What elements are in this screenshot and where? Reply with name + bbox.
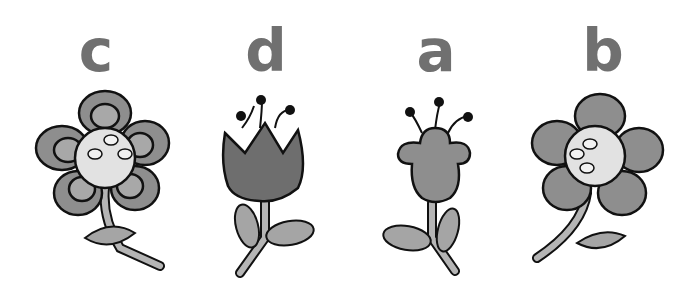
card-c: c (10, 0, 182, 301)
bell-flower-icon (350, 88, 522, 288)
card-d: d (180, 0, 352, 301)
card-a: a (350, 0, 522, 301)
letter-label: b (517, 16, 689, 86)
daisy-flower-icon (10, 88, 182, 288)
tulip-flower-icon (180, 88, 352, 288)
daisy-flower-icon (517, 88, 689, 288)
letter-label: a (350, 16, 522, 86)
letter-label: d (180, 16, 352, 86)
card-b: b (517, 0, 689, 301)
letter-label: c (10, 16, 182, 86)
